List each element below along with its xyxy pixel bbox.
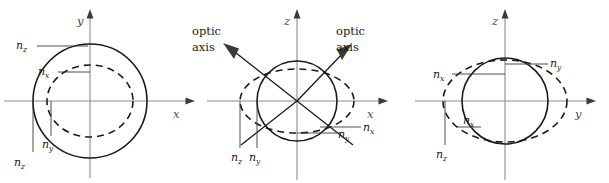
axis-label-x: x <box>173 107 180 121</box>
axis-label-y: y <box>76 14 84 28</box>
label-nz-upper: nz <box>16 39 27 54</box>
label-ny-lower: ny <box>42 138 54 153</box>
axis-label-y: y <box>574 107 582 121</box>
vertical-axis-z <box>294 9 301 180</box>
panel-yz-cross-section: ny nx nx nz z y <box>395 0 609 183</box>
vertical-axis-z <box>502 9 509 180</box>
svg-text:optic: optic <box>336 24 365 38</box>
panel-xy-cross-section: nz nx ny nz y x <box>0 0 203 183</box>
panel-xz-cross-section: optic axis optic axis nz ny ny nx z x <box>185 0 397 183</box>
optic-axis-label-left: optic axis <box>192 24 221 54</box>
indicatrix-figure: nz nx ny nz y x <box>0 0 609 183</box>
svg-text:axis: axis <box>192 40 215 54</box>
svg-text:axis: axis <box>336 40 359 54</box>
axis-label-z: z <box>491 14 499 28</box>
label-nz-bottom: nz <box>231 151 242 166</box>
label-ny-upper: ny <box>550 57 562 72</box>
vertical-axis-y <box>87 9 94 178</box>
label-ny-bottom-right: ny <box>338 128 350 143</box>
label-nx-bottom-right: nx <box>363 121 375 136</box>
label-nz-lower: nz <box>436 148 447 163</box>
label-nx-upper: nx <box>38 65 50 80</box>
label-nx-inner-left: nx <box>463 114 475 129</box>
axis-label-z: z <box>283 14 291 28</box>
optic-axis-left <box>223 43 297 145</box>
optic-axis-label-right: optic axis <box>336 24 365 54</box>
axis-label-x: x <box>367 107 374 121</box>
svg-text:optic: optic <box>192 24 221 38</box>
label-ny-bottom-left: ny <box>249 151 261 166</box>
label-nx-upper-left: nx <box>433 68 445 83</box>
label-nz-lower: nz <box>14 156 25 171</box>
